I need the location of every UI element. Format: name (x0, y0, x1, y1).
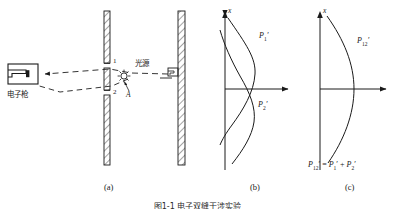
panel-c-axis-label: x (323, 6, 326, 15)
electron-gun-symbol (8, 64, 38, 84)
detector-screen (178, 11, 185, 165)
double-slit-barrier (104, 11, 110, 165)
electron-gun-label: 电子枪 (7, 88, 28, 99)
panel-label-b: (b) (250, 182, 260, 192)
light-source-label: 光源 (135, 57, 149, 68)
p2-prime: ′ (266, 100, 268, 109)
figure-root: 电子枪 光源 1 2 A x P1′ P2′ x P12′ P12′ = P1′… (0, 0, 395, 209)
point-a-label: A (126, 90, 131, 99)
eq-p1-prime: ′ (336, 160, 338, 169)
panel-c-x-arrowhead (317, 11, 323, 18)
panel-c-equation: P12′ = P1′ + P2′ (308, 160, 356, 171)
eq-p12-prime: ′ (318, 160, 320, 169)
slit-2-label: 2 (113, 88, 117, 96)
detector-symbol (160, 68, 178, 78)
electron-ray-paths (36, 69, 168, 92)
eq-p2-prime: ′ (354, 160, 356, 169)
panel-a-group (8, 11, 185, 165)
panel-b-axis-label: x (228, 6, 231, 15)
panel-b-curve-p1-label: P1′ (259, 31, 268, 42)
eq-equals: = (322, 160, 327, 169)
p12-prime: ′ (367, 36, 369, 45)
panel-b-curve-p2-label: P2′ (258, 100, 267, 111)
panel-b-group (220, 11, 288, 170)
figure-drawing (0, 0, 395, 209)
panel-c-group (317, 11, 386, 170)
panel-label-a: (a) (104, 182, 113, 192)
panel-c-curve-p12-label: P12′ (357, 36, 369, 47)
figure-caption: 图1-1 电子双缝干涉实验 (0, 200, 395, 209)
slit-1-label: 1 (113, 57, 117, 65)
eq-plus: + (340, 160, 345, 169)
panel-b-x-arrowhead (222, 11, 228, 18)
p1-prime: ′ (267, 31, 269, 40)
panel-label-c: (c) (345, 182, 354, 192)
